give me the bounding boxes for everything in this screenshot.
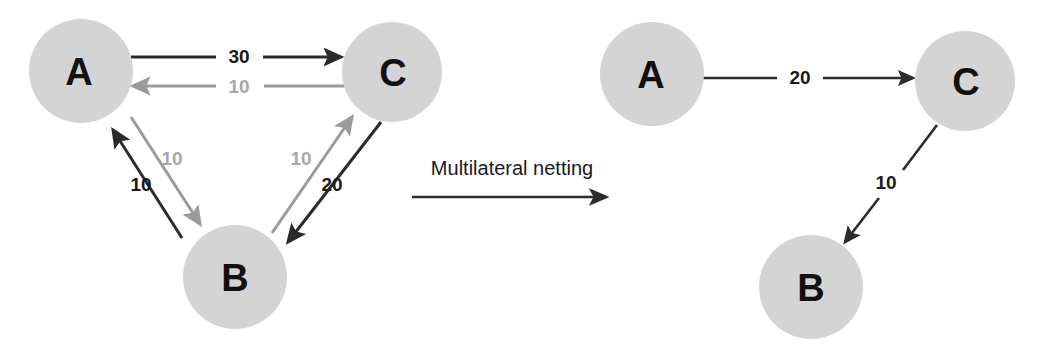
- edge-label-c-to-b-10-after: 10: [875, 172, 896, 193]
- edge-b-to-a-10: 10: [113, 130, 182, 238]
- node-a-after[interactable]: A: [600, 22, 704, 126]
- after-netting-group: 20 10 A C B: [600, 22, 1015, 339]
- node-a-before[interactable]: A: [29, 19, 133, 123]
- process-label: Multilateral netting: [431, 157, 593, 179]
- edge-a-to-b-10: 10: [131, 117, 200, 224]
- edge-c-to-b-10-after: 10: [845, 125, 937, 242]
- diagram-canvas: 30 10 10 10 10: [0, 0, 1048, 344]
- edge-c-to-b-10-after-segment-upper: [903, 125, 937, 170]
- edge-a-to-b-10-line: [131, 117, 200, 224]
- node-c-after-label: C: [952, 61, 979, 103]
- before-netting-group: 30 10 10 10 10: [29, 19, 442, 329]
- edge-label-c-to-b-20: 20: [321, 174, 342, 195]
- process-arrow-group: Multilateral netting: [412, 157, 606, 197]
- edge-label-c-to-a-10: 10: [228, 76, 249, 97]
- edge-a-to-c-30: 30: [131, 46, 341, 67]
- edge-label-a-to-c-20-after: 20: [789, 67, 810, 88]
- edge-label-b-to-c-10: 10: [290, 148, 311, 169]
- node-a-before-label: A: [65, 51, 92, 93]
- node-a-after-label: A: [637, 54, 664, 96]
- edge-label-a-to-c-30: 30: [228, 46, 249, 67]
- node-c-before-label: C: [379, 52, 406, 94]
- node-b-after[interactable]: B: [759, 235, 863, 339]
- node-c-after[interactable]: C: [915, 31, 1015, 131]
- edge-c-to-b-10-after-segment-lower: [845, 198, 879, 242]
- edge-label-a-to-b-10: 10: [161, 148, 182, 169]
- node-b-before-label: B: [221, 257, 248, 299]
- edge-c-to-a-10: 10: [133, 76, 345, 97]
- edge-label-b-to-a-10: 10: [130, 174, 151, 195]
- node-b-before[interactable]: B: [183, 225, 287, 329]
- node-b-after-label: B: [797, 267, 824, 309]
- edge-a-to-c-20-after: 20: [703, 67, 913, 88]
- multilateral-netting-figure: 30 10 10 10 10: [0, 0, 1048, 344]
- node-c-before[interactable]: C: [342, 22, 442, 122]
